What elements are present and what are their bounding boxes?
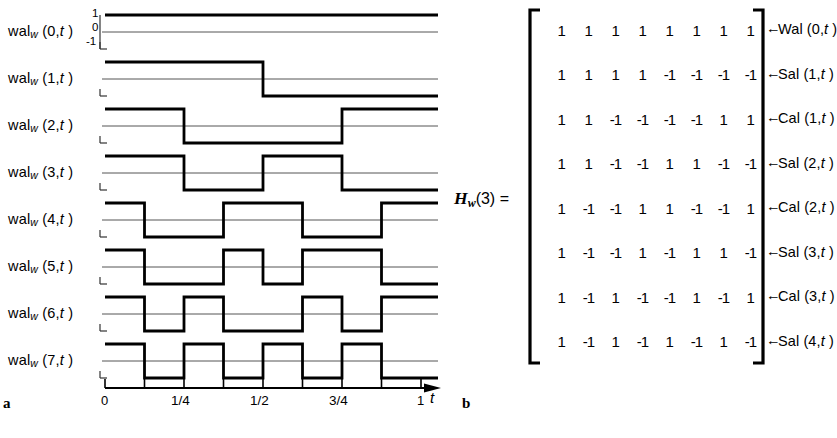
annotation-args: (2,t ) xyxy=(800,199,835,215)
x-axis-tick-label-2: 1/2 xyxy=(250,394,269,408)
matrix-cell-r5-c1: -1 xyxy=(575,231,602,276)
annotation-args: (2,t ) xyxy=(799,155,834,171)
matrix-cell-r5-c2: -1 xyxy=(602,231,629,276)
leader-arrow-icon: ← xyxy=(766,333,778,348)
annotation-function-name: Cal xyxy=(778,110,800,126)
matrix-cell-r3-c3: -1 xyxy=(629,142,656,187)
matrix-cell-r6-c1: -1 xyxy=(575,275,602,320)
matrix-cell-r1-c3: 1 xyxy=(629,53,656,98)
matrix-symbol: H xyxy=(454,188,468,208)
matrix-name-label: Hw(3) = xyxy=(454,190,509,209)
matrix-cell-r7-c1: -1 xyxy=(575,320,602,365)
panel-b-hadamard-matrix: Hw(3) = 111111111111-1-1-1-111-1-1-1-111… xyxy=(450,0,795,438)
matrix-cell-r4-c0: 1 xyxy=(548,186,575,231)
matrix-left-bracket xyxy=(528,8,541,365)
panel-a-walsh-functions: walw (0,t )walw (1,t )walw (2,t )walw (3… xyxy=(0,0,450,438)
annotation-args: (0,t ) xyxy=(803,21,837,37)
matrix-row: 1-11-1-11-11 xyxy=(548,275,764,320)
matrix-cell-r7-c3: -1 xyxy=(629,320,656,365)
matrix-cell-r6-c3: -1 xyxy=(629,275,656,320)
matrix-cell-r4-c1: -1 xyxy=(575,186,602,231)
matrix-table: 111111111111-1-1-1-111-1-1-1-11111-1-111… xyxy=(548,8,764,364)
annotation-function-name: Cal xyxy=(778,199,800,215)
matrix-cell-r2-c6: 1 xyxy=(710,97,737,142)
matrix-cell-r0-c2: 1 xyxy=(602,8,629,53)
walsh-waveform-plot xyxy=(0,0,450,438)
panel-a-letter: a xyxy=(3,396,11,411)
matrix-cell-r2-c0: 1 xyxy=(548,97,575,142)
matrix-cell-r7-c2: 1 xyxy=(602,320,629,365)
x-axis-tick-label-0: 0 xyxy=(101,394,108,407)
matrix-cell-r0-c6: 1 xyxy=(710,8,737,53)
annotation-function-name: Sal xyxy=(778,333,799,349)
matrix-row-annotation-4: ←Cal (2,t ) xyxy=(766,200,835,215)
matrix-cell-r0-c1: 1 xyxy=(575,8,602,53)
matrix-cell-r1-c4: -1 xyxy=(656,53,683,98)
matrix-cell-r3-c4: 1 xyxy=(656,142,683,187)
matrix-cell-r4-c6: -1 xyxy=(710,186,737,231)
matrix-cell-r6-c0: 1 xyxy=(548,275,575,320)
matrix-symbol-subscript: w xyxy=(468,196,476,210)
matrix-cell-r3-c5: 1 xyxy=(683,142,710,187)
matrix-row: 1-1-11-111-1 xyxy=(548,231,764,276)
leader-arrow-icon: ← xyxy=(766,244,778,259)
matrix-row-annotation-7: ←Sal (4,t ) xyxy=(766,334,834,349)
leader-arrow-icon: ← xyxy=(766,155,778,170)
matrix-cell-r5-c5: 1 xyxy=(683,231,710,276)
matrix-row-annotation-5: ←Sal (3,t ) xyxy=(766,245,834,260)
x-axis-tick-label-3: 3/4 xyxy=(329,394,348,408)
leader-arrow-icon: ← xyxy=(766,110,778,125)
annotation-function-name: Sal xyxy=(778,66,799,82)
matrix-cell-r1-c2: 1 xyxy=(602,53,629,98)
matrix-cell-r3-c2: -1 xyxy=(602,142,629,187)
panel-b-letter: b xyxy=(462,396,470,411)
annotation-args: (3,t ) xyxy=(800,288,835,304)
matrix-cell-r4-c5: -1 xyxy=(683,186,710,231)
leader-arrow-icon: ← xyxy=(766,199,778,214)
matrix-cell-r3-c0: 1 xyxy=(548,142,575,187)
matrix-cell-r7-c5: -1 xyxy=(683,320,710,365)
matrix-cell-r1-c0: 1 xyxy=(548,53,575,98)
matrix-cell-r1-c1: 1 xyxy=(575,53,602,98)
matrix-row-annotation-2: ←Cal (1,t ) xyxy=(766,111,835,126)
matrix-cell-r6-c6: -1 xyxy=(710,275,737,320)
annotation-args: (3,t ) xyxy=(799,244,834,260)
matrix-row: 11111111 xyxy=(548,8,764,53)
annotation-function-name: Sal xyxy=(778,244,799,260)
matrix-cell-r6-c4: -1 xyxy=(656,275,683,320)
matrix-cell-r2-c2: -1 xyxy=(602,97,629,142)
x-axis-tick-label-4: 1 xyxy=(417,394,424,407)
annotation-function-name: Wal xyxy=(778,21,803,37)
matrix-row-annotation-1: ←Sal (1,t ) xyxy=(766,67,834,82)
waveform-traces xyxy=(100,15,438,378)
matrix-cell-r7-c6: 1 xyxy=(710,320,737,365)
leader-arrow-icon: ← xyxy=(766,66,778,81)
matrix-right-bracket xyxy=(752,8,765,365)
matrix-cell-r6-c5: 1 xyxy=(683,275,710,320)
matrix-cell-r7-c0: 1 xyxy=(548,320,575,365)
matrix-row: 11-1-111-1-1 xyxy=(548,142,764,187)
matrix-cell-r5-c4: -1 xyxy=(656,231,683,276)
matrix-row-annotation-6: ←Cal (3,t ) xyxy=(766,289,835,304)
matrix-cell-r0-c5: 1 xyxy=(683,8,710,53)
matrix-cell-r2-c4: -1 xyxy=(656,97,683,142)
matrix-cell-r3-c1: 1 xyxy=(575,142,602,187)
matrix-cell-r1-c6: -1 xyxy=(710,53,737,98)
matrix-cell-r2-c1: 1 xyxy=(575,97,602,142)
matrix-cell-r4-c3: 1 xyxy=(629,186,656,231)
matrix-cell-r0-c3: 1 xyxy=(629,8,656,53)
matrix-cell-r1-c5: -1 xyxy=(683,53,710,98)
matrix-cell-r6-c2: 1 xyxy=(602,275,629,320)
matrix-cell-r2-c5: -1 xyxy=(683,97,710,142)
annotation-function-name: Cal xyxy=(778,288,800,304)
matrix-cell-r4-c4: 1 xyxy=(656,186,683,231)
annotation-args: (1,t ) xyxy=(800,110,835,126)
matrix-cell-r5-c3: 1 xyxy=(629,231,656,276)
leader-arrow-icon: ← xyxy=(766,21,778,36)
matrix-argument: (3) = xyxy=(476,190,509,207)
matrix-cell-r4-c2: -1 xyxy=(602,186,629,231)
matrix-row: 11-1-1-1-111 xyxy=(548,97,764,142)
matrix-cell-r3-c6: -1 xyxy=(710,142,737,187)
matrix-row: 1-11-11-11-1 xyxy=(548,320,764,365)
